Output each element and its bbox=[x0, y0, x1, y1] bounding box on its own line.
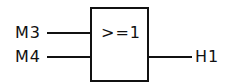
output-label-h1: H1 bbox=[195, 49, 219, 65]
gate-label: >=1 bbox=[101, 25, 141, 41]
input-label-m4: M4 bbox=[15, 49, 41, 65]
or-gate-box bbox=[91, 8, 148, 81]
input-label-m3: M3 bbox=[15, 25, 41, 41]
